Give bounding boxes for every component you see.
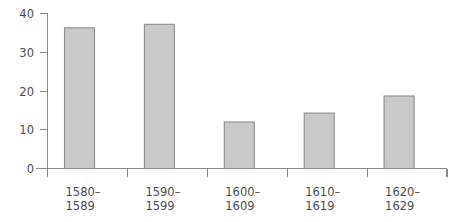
bar-chart: 40 30 20 10 0 1580–15891590–15991600–160… — [0, 0, 464, 222]
bar — [384, 96, 414, 169]
y-tick-marks — [40, 14, 48, 169]
x-tick-label: 1580–1589 — [66, 185, 101, 213]
y-tick-label-10: 10 — [19, 123, 34, 137]
chart-plot-area: 40 30 20 10 0 1580–15891590–15991600–160… — [0, 0, 464, 222]
x-tick-marks — [48, 169, 448, 177]
y-tick-label-40: 40 — [19, 7, 34, 21]
x-tick-label: 1590–1599 — [145, 185, 180, 213]
x-tick-label: 1610–1619 — [305, 185, 340, 213]
x-tick-label: 1600–1609 — [225, 185, 260, 213]
y-tick-label-30: 30 — [19, 46, 34, 60]
y-tick-label-20: 20 — [19, 85, 34, 99]
y-tick-label-0: 0 — [27, 162, 34, 176]
x-tick-label: 1620–1629 — [385, 185, 420, 213]
x-tick-labels: 1580–15891590–15991600–16091610–16191620… — [66, 185, 421, 213]
bar — [144, 24, 174, 168]
bar — [304, 113, 334, 168]
bar — [224, 122, 254, 169]
bars-group — [65, 24, 415, 168]
y-tick-labels: 40 30 20 10 0 — [19, 7, 34, 176]
bar — [65, 28, 95, 169]
